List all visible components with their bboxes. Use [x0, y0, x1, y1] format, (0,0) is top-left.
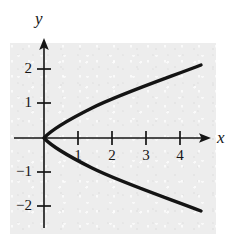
figure-panel: y x 1 2 3 4 2 1 −1 −2: [0, 0, 230, 234]
plot-canvas: [0, 0, 230, 234]
x-tick-label-2: 2: [104, 148, 120, 163]
y-tick-label-1: 1: [12, 95, 32, 110]
y-tick-label-minus-1: −1: [6, 164, 32, 179]
y-tick-label-2: 2: [12, 61, 32, 76]
x-tick-label-1: 1: [70, 148, 86, 163]
x-tick-label-4: 4: [172, 148, 188, 163]
y-tick-label-minus-2: −2: [6, 198, 32, 213]
x-axis-label: x: [217, 129, 225, 146]
y-axis-label: y: [35, 10, 43, 27]
x-tick-label-3: 3: [138, 148, 154, 163]
